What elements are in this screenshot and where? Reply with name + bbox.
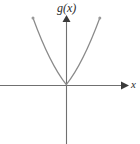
- curve-endpoint-left: [32, 17, 35, 20]
- y-axis-arrow-icon: [63, 15, 71, 22]
- graph-canvas: [0, 0, 140, 144]
- y-axis-function-label: g(x): [57, 2, 76, 14]
- x-axis-label: x: [131, 79, 136, 90]
- graph-figure: g(x) x: [0, 0, 140, 144]
- curve-endpoint-right: [98, 17, 101, 20]
- x-axis-arrow-icon: [121, 82, 129, 90]
